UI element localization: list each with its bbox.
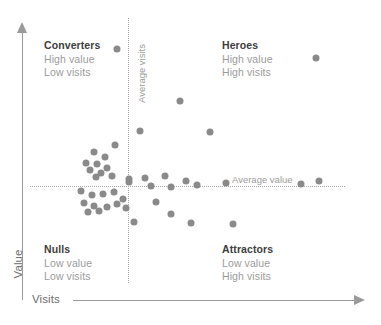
quadrant-title: Attractors: [222, 243, 273, 257]
scatter-point: [99, 191, 106, 198]
average-visits-label: Average visits: [136, 36, 147, 112]
scatter-point: [167, 184, 174, 191]
scatter-point: [103, 164, 110, 171]
scatter-point: [222, 180, 229, 187]
quadrant-detail-line-2: Low visits: [44, 66, 100, 80]
scatter-point: [101, 153, 108, 160]
arrow-right-icon: [354, 295, 365, 305]
quadrant-detail-line-2: Low visits: [44, 270, 92, 284]
scatter-point: [230, 221, 237, 228]
scatter-point: [85, 208, 92, 215]
scatter-point: [110, 189, 117, 196]
quadrant-detail-line-1: Low value: [44, 257, 92, 271]
scatter-point: [119, 195, 126, 202]
quadrant-title: Converters: [44, 39, 100, 53]
scatter-point: [103, 203, 110, 210]
average-visits-reference-line: [128, 18, 129, 283]
scatter-point: [193, 182, 200, 189]
y-axis-label: Value: [12, 234, 24, 294]
scatter-point: [125, 179, 132, 186]
quadrant-detail-line-1: High value: [44, 53, 100, 67]
scatter-point: [108, 172, 115, 179]
quadrant-detail-line-1: High value: [222, 53, 273, 67]
quadrant-attractors: Attractors Low value High visits: [222, 243, 273, 284]
scatter-point: [316, 178, 323, 185]
scatter-point: [297, 181, 304, 188]
scatter-point: [87, 166, 94, 173]
quadrant-title: Nulls: [44, 243, 92, 257]
scatter-point: [182, 177, 189, 184]
quadrant-detail-line-2: High visits: [222, 66, 273, 80]
scatter-point: [114, 45, 121, 52]
scatter-point: [142, 174, 149, 181]
scatter-point: [176, 98, 183, 105]
average-value-label: Average value: [232, 174, 293, 185]
scatter-chart: Value Visits Average visits Average valu…: [0, 0, 381, 325]
quadrant-title: Heroes: [222, 39, 273, 53]
scatter-point: [188, 220, 195, 227]
x-axis-label: Visits: [32, 293, 60, 305]
scatter-point: [96, 207, 103, 214]
quadrant-detail-line-2: High visits: [222, 270, 273, 284]
quadrant-nulls: Nulls Low value Low visits: [44, 243, 92, 284]
scatter-point: [83, 159, 90, 166]
scatter-point: [89, 192, 96, 199]
scatter-point: [131, 219, 138, 226]
scatter-point: [313, 55, 320, 62]
x-axis-line: [73, 300, 355, 301]
scatter-point: [114, 200, 121, 207]
scatter-point: [92, 173, 99, 180]
quadrant-converters: Converters High value Low visits: [44, 39, 100, 80]
scatter-point: [94, 160, 101, 167]
scatter-point: [78, 188, 85, 195]
quadrant-detail-line-1: Low value: [222, 257, 273, 271]
arrow-up-icon: [17, 22, 27, 33]
scatter-point: [153, 198, 160, 205]
scatter-point: [206, 128, 213, 135]
scatter-point: [136, 127, 143, 134]
scatter-point: [123, 204, 130, 211]
scatter-point: [112, 142, 119, 149]
scatter-point: [81, 199, 88, 206]
quadrant-heroes: Heroes High value High visits: [222, 39, 273, 80]
scatter-point: [90, 148, 97, 155]
scatter-point: [147, 183, 154, 190]
scatter-point: [167, 211, 174, 218]
scatter-point: [162, 172, 169, 179]
